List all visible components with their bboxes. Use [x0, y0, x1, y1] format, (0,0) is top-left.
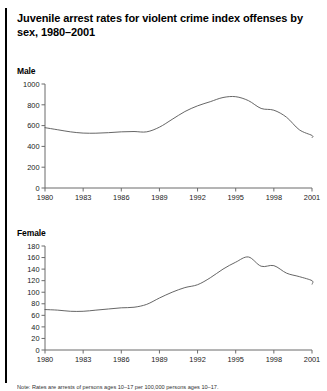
page-title: Juvenile arrest rates for violent crime … — [17, 12, 313, 39]
svg-text:1992: 1992 — [189, 193, 205, 202]
figure-page: Juvenile arrest rates for violent crime … — [0, 0, 327, 391]
svg-text:1000: 1000 — [23, 80, 39, 89]
svg-text:180: 180 — [27, 242, 39, 251]
svg-text:20: 20 — [31, 334, 39, 343]
svg-text:40: 40 — [31, 323, 39, 332]
svg-text:1986: 1986 — [113, 355, 129, 364]
svg-text:1998: 1998 — [266, 193, 282, 202]
svg-text:80: 80 — [31, 299, 39, 308]
svg-text:1983: 1983 — [75, 355, 91, 364]
svg-text:200: 200 — [27, 163, 39, 172]
svg-text:1992: 1992 — [189, 355, 205, 364]
svg-text:1986: 1986 — [113, 193, 129, 202]
svg-text:160: 160 — [27, 253, 39, 262]
svg-text:100: 100 — [27, 288, 39, 297]
svg-text:120: 120 — [27, 276, 39, 285]
panel-label-male: Male — [17, 66, 36, 76]
svg-text:1980: 1980 — [37, 355, 53, 364]
panel-label-female: Female — [17, 228, 46, 238]
svg-text:600: 600 — [27, 121, 39, 130]
svg-text:400: 400 — [27, 142, 39, 151]
svg-text:2001: 2001 — [304, 193, 320, 202]
svg-text:2001: 2001 — [304, 355, 320, 364]
svg-text:1983: 1983 — [75, 193, 91, 202]
svg-text:1980: 1980 — [37, 193, 53, 202]
svg-text:140: 140 — [27, 265, 39, 274]
svg-text:0: 0 — [35, 184, 39, 193]
svg-text:1995: 1995 — [227, 193, 243, 202]
svg-text:1989: 1989 — [151, 193, 167, 202]
svg-text:0: 0 — [35, 346, 39, 355]
svg-text:1998: 1998 — [266, 355, 282, 364]
svg-text:800: 800 — [27, 101, 39, 110]
svg-text:1995: 1995 — [227, 355, 243, 364]
chart-male: 0200400600800100019801983198619891992199… — [0, 78, 327, 206]
chart-female: 0204060801001201401601801980198319861989… — [0, 240, 327, 368]
svg-text:60: 60 — [31, 311, 39, 320]
svg-text:1989: 1989 — [151, 355, 167, 364]
figure-footnote: Note: Rates are arrests of persons ages … — [17, 384, 317, 391]
